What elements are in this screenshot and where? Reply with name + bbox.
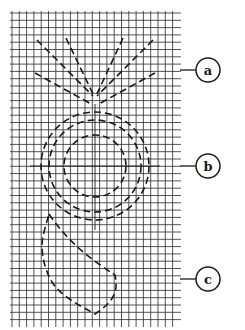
callout-a: a xyxy=(180,58,220,82)
callout-labels: abc xyxy=(180,58,220,291)
dashed-ray xyxy=(96,38,123,96)
dashed-ray xyxy=(97,40,153,96)
teardrop-dashed-shape xyxy=(42,214,116,314)
callout-c: c xyxy=(180,267,220,291)
label-letter: b xyxy=(203,159,212,174)
teardrop-outline xyxy=(42,214,116,314)
diagram-canvas: abc xyxy=(0,0,245,330)
label-letter: a xyxy=(204,63,213,78)
callout-b: b xyxy=(180,154,220,178)
label-letter: c xyxy=(204,272,212,287)
grid-paper xyxy=(10,11,181,327)
